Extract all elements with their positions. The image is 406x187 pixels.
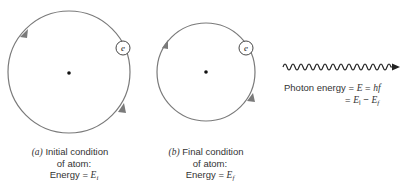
orbit-arrow-icon [162, 40, 168, 49]
energy-label: Energy = [50, 169, 91, 180]
caption-b: (b) Final condition of atom: Energy = Ef [158, 146, 254, 184]
nucleus-icon [204, 70, 208, 74]
energy-label: Energy = [186, 169, 227, 180]
nucleus-icon [67, 71, 71, 75]
caption-text: Final condition [182, 146, 243, 157]
hf-symbol: hf [373, 83, 380, 93]
panel-label: (a) [32, 147, 43, 157]
caption-text: Initial condition [45, 146, 108, 157]
equals-sign: = [345, 94, 353, 105]
arrowhead-icon [392, 64, 400, 71]
subscript-f: f [377, 99, 379, 107]
subscript: f [232, 174, 234, 182]
panel-a-atom: e [8, 11, 130, 133]
photon-energy-difference: = Ei − Ef [345, 94, 379, 109]
photon-energy-label: Photon energy = [284, 82, 357, 93]
photon-wave-icon [283, 64, 400, 71]
subscript: i [96, 174, 98, 182]
panel-label: (b) [169, 147, 180, 157]
minus-sign: − [361, 94, 372, 105]
caption-text: of atom: [158, 158, 254, 169]
electron-label: e [244, 43, 248, 53]
caption-a-line1: (a) Initial condition [20, 146, 120, 158]
orbit-arrow-icon [118, 103, 126, 113]
panel-b-atom: e [157, 23, 255, 121]
caption-b-line1: (b) Final condition [158, 146, 254, 158]
caption-energy: Energy = Ef [158, 169, 254, 184]
caption-a: (a) Initial condition of atom: Energy = … [20, 146, 120, 184]
photon-energy-equation: Photon energy = E = hf [284, 82, 381, 94]
electron-label: e [121, 43, 125, 53]
caption-energy: Energy = Ei [20, 169, 120, 184]
equals-sign: = [362, 82, 373, 93]
caption-text: of atom: [20, 158, 120, 169]
